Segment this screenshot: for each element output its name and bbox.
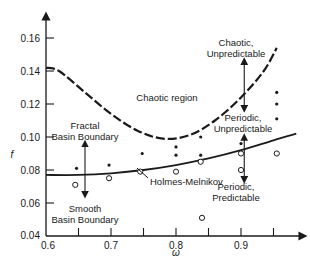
annotations: Chaotic region Chaotic, Unpredictable Pe… xyxy=(51,37,272,225)
y-tick-label: 0.12 xyxy=(21,99,41,110)
y-ticks: 0.040.060.080.100.120.140.16 xyxy=(21,33,54,242)
smooth-point xyxy=(199,215,204,220)
fractal-point xyxy=(174,145,177,148)
x-ticks: 0.60.70.80.9 xyxy=(41,228,273,251)
periodic-unpredictable-label-1: Periodic, xyxy=(225,112,262,123)
x-axis-label: ω xyxy=(172,247,180,258)
smooth-basin-label-1: Smooth xyxy=(69,203,102,214)
periodic-unpredictable-label-2: Unpredictable xyxy=(214,123,273,134)
smooth-point xyxy=(173,169,178,174)
fractal-basin-label-1: Fractal xyxy=(70,120,99,131)
y-tick-label: 0.04 xyxy=(21,230,41,241)
chaotic-unpredictable-label-1: Chaotic, xyxy=(219,37,254,48)
smooth-point xyxy=(274,151,279,156)
y-tick-label: 0.14 xyxy=(21,66,41,77)
fractal-point xyxy=(199,135,202,138)
x-tick-label: 0.7 xyxy=(104,240,118,251)
smooth-point xyxy=(198,159,203,164)
y-tick-label: 0.08 xyxy=(21,165,41,176)
y-axis-label: f xyxy=(11,149,15,160)
smooth-point xyxy=(106,176,111,181)
fractal-point xyxy=(107,163,110,166)
fractal-basin-label-2: Basin Boundary xyxy=(51,131,118,142)
y-tick-label: 0.16 xyxy=(21,33,41,44)
y-tick-label: 0.10 xyxy=(21,132,41,143)
x-tick-label: 0.6 xyxy=(41,240,55,251)
holmes-melnikov-label: Holmes-Melnikov xyxy=(150,176,223,187)
smooth-point xyxy=(238,151,243,156)
smooth-point xyxy=(73,182,78,187)
chart-container: 0.60.70.80.9 0.040.060.080.100.120.140.1… xyxy=(0,0,310,266)
smooth-basin-label-2: Basin Boundary xyxy=(51,214,118,225)
fractal-point xyxy=(275,91,278,94)
fractal-point xyxy=(174,154,177,157)
periodic-predictable-label-2: Predictable xyxy=(212,192,260,203)
smooth-point xyxy=(238,167,243,172)
x-tick-label: 0.9 xyxy=(234,240,248,251)
fractal-point xyxy=(239,142,242,145)
periodic-predictable-label-1: Periodic, xyxy=(218,181,255,192)
fractal-point xyxy=(199,154,202,157)
fractal-point xyxy=(75,167,78,170)
fractal-point xyxy=(141,152,144,155)
fractal-point xyxy=(275,117,278,120)
y-tick-label: 0.06 xyxy=(21,198,41,209)
chaotic-region-label: Chaotic region xyxy=(136,92,197,103)
fractal-point xyxy=(275,102,278,105)
chaotic-unpredictable-label-2: Unpredictable xyxy=(207,48,266,59)
